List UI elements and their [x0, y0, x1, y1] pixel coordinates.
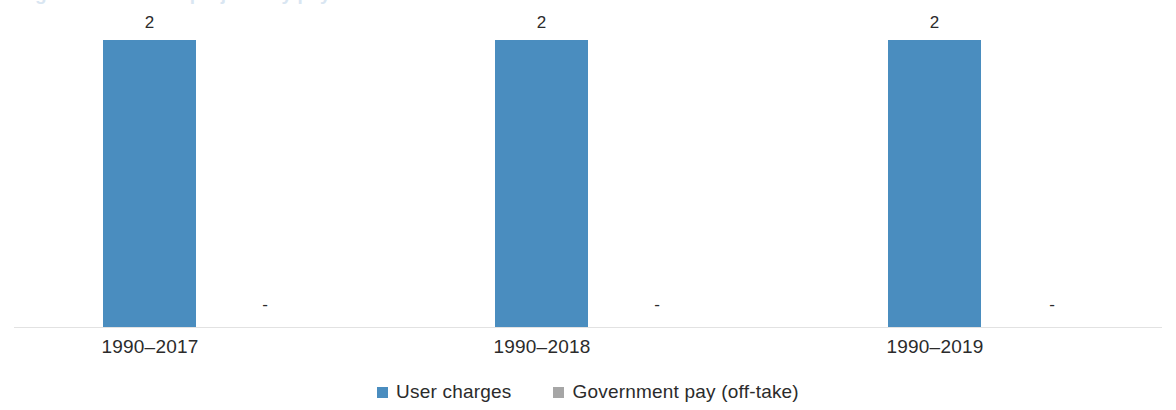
- category-label-1990-2017: 1990–2017: [55, 336, 245, 358]
- bar-user-charges-1990-2019: [888, 40, 981, 327]
- legend-item-user-charges[interactable]: User charges: [377, 381, 511, 403]
- cropped-title-strip: Figure: Number of projects by payment me…: [0, 0, 1176, 7]
- bar-value-label-user-charges-1990-2019: 2: [888, 13, 981, 33]
- plot-area: 2 2 2 - - -: [0, 7, 1176, 330]
- bar-user-charges-1990-2018: [495, 40, 588, 327]
- bar-chart-figure: Figure: Number of projects by payment me…: [0, 0, 1176, 410]
- bar-user-charges-1990-2017: [103, 40, 196, 327]
- chart-legend: User charges Government pay (off-take): [0, 381, 1176, 403]
- category-label-1990-2018: 1990–2018: [447, 336, 637, 358]
- legend-swatch-icon-government-pay: [553, 387, 564, 398]
- legend-label-user-charges: User charges: [396, 381, 511, 403]
- figure-title: Figure: Number of projects by payment me…: [18, 0, 487, 5]
- legend-label-government-pay: Government pay (off-take): [572, 381, 798, 403]
- legend-swatch-icon-user-charges: [377, 387, 388, 398]
- category-axis-labels: 1990–2017 1990–2018 1990–2019: [0, 336, 1176, 364]
- category-axis-line: [14, 327, 1162, 328]
- legend-item-government-pay[interactable]: Government pay (off-take): [553, 381, 798, 403]
- category-label-1990-2019: 1990–2019: [840, 336, 1030, 358]
- bar-value-label-government-pay-1990-2017: -: [245, 296, 285, 313]
- bar-value-label-user-charges-1990-2018: 2: [495, 13, 588, 33]
- bar-value-label-government-pay-1990-2019: -: [1032, 296, 1072, 313]
- bar-value-label-user-charges-1990-2017: 2: [103, 13, 196, 33]
- bar-value-label-government-pay-1990-2018: -: [637, 296, 677, 313]
